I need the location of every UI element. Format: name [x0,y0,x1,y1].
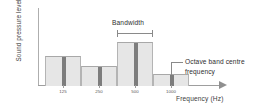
bandwidth-span-arrow [117,33,153,34]
x-tick-125 [63,85,64,88]
centre-frequency-leader-horizontal [171,62,183,63]
bar-250 [81,66,117,86]
centre-frequency-leader-vertical [171,62,172,75]
y-axis-line [38,8,39,86]
centre-frequency-label-line-2: frequency [185,67,245,77]
centre-frequency-label-line-1: Octave band centre [185,57,245,67]
bandwidth-annotation-label: Bandwidth [112,19,144,26]
x-tick-label-250: 250 [95,89,103,94]
octave-band-spectrum-chart: Sound pressure level (dB) Frequency (Hz)… [0,0,263,107]
x-axis-title: Frequency (Hz) [176,95,224,102]
x-tick-1000 [171,85,172,88]
x-tick-label-500: 500 [131,89,139,94]
centre-frequency-annotation-label: Octave band centre frequency [185,57,245,76]
bar-125 [45,56,81,86]
x-tick-250 [99,85,100,88]
x-axis-arrow-icon [219,81,227,89]
x-tick-label-125: 125 [59,89,67,94]
x-tick-500 [135,85,136,88]
y-axis-title: Sound pressure level (dB) [15,0,22,62]
bandwidth-right-end-cap [152,30,153,37]
x-tick-label-1000: 1000 [166,89,176,94]
centre-frequency-stripe-125 [62,57,66,86]
centre-frequency-stripe-500 [134,43,138,86]
bar-500 [117,42,153,86]
centre-frequency-stripe-250 [98,67,102,86]
bandwidth-left-end-cap [117,30,118,37]
